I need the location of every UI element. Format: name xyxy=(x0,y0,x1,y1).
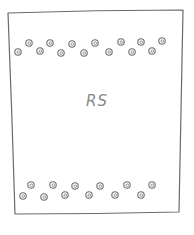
dot-center-icon xyxy=(151,50,154,53)
dot-center-icon xyxy=(94,42,97,45)
dot-center-icon xyxy=(74,185,77,188)
dot-icon xyxy=(15,49,21,55)
dot-center-icon xyxy=(108,51,111,54)
dot-center-icon xyxy=(71,43,74,46)
dot-icon xyxy=(124,182,130,188)
dot-center-icon xyxy=(88,194,91,197)
dot-icon xyxy=(69,41,75,47)
dot-icon xyxy=(129,49,135,55)
dot-icon xyxy=(92,40,98,46)
dot-icon xyxy=(58,50,64,56)
dot-center-icon xyxy=(52,184,55,187)
dot-center-icon xyxy=(22,195,25,198)
dot-center-icon xyxy=(114,194,117,197)
dot-center-icon xyxy=(83,52,86,55)
dot-icon xyxy=(149,182,155,188)
dot-center-icon xyxy=(151,184,154,187)
sketch-canvas xyxy=(0,0,194,235)
dot-center-icon xyxy=(43,196,46,199)
dot-center-icon xyxy=(28,42,31,45)
dot-center-icon xyxy=(131,51,134,54)
dot-center-icon xyxy=(140,194,143,197)
dot-center-icon xyxy=(64,194,67,197)
dot-icon xyxy=(81,50,87,56)
dot-center-icon xyxy=(60,52,63,55)
dot-icon xyxy=(97,183,103,189)
monogram-label: RS xyxy=(80,92,114,110)
dot-icon xyxy=(159,38,165,44)
bottom-dot-row xyxy=(20,182,155,200)
dot-center-icon xyxy=(140,41,143,44)
dot-icon xyxy=(118,39,124,45)
dot-icon xyxy=(138,192,144,198)
dot-icon xyxy=(138,39,144,45)
dot-icon xyxy=(50,182,56,188)
dot-icon xyxy=(106,49,112,55)
dot-icon xyxy=(47,40,53,46)
dot-icon xyxy=(149,48,155,54)
dot-center-icon xyxy=(49,42,52,45)
dot-icon xyxy=(72,183,78,189)
dot-center-icon xyxy=(161,40,164,43)
dot-icon xyxy=(37,48,43,54)
dot-icon xyxy=(112,192,118,198)
dot-center-icon xyxy=(30,184,33,187)
dot-center-icon xyxy=(39,50,42,53)
dot-center-icon xyxy=(17,51,20,54)
dot-icon xyxy=(62,192,68,198)
dot-icon xyxy=(28,182,34,188)
dot-icon xyxy=(20,193,26,199)
dot-icon xyxy=(26,40,32,46)
dot-center-icon xyxy=(99,185,102,188)
top-dot-row xyxy=(15,38,165,56)
dot-icon xyxy=(86,192,92,198)
dot-icon xyxy=(41,194,47,200)
dot-center-icon xyxy=(120,41,123,44)
dot-center-icon xyxy=(126,184,129,187)
